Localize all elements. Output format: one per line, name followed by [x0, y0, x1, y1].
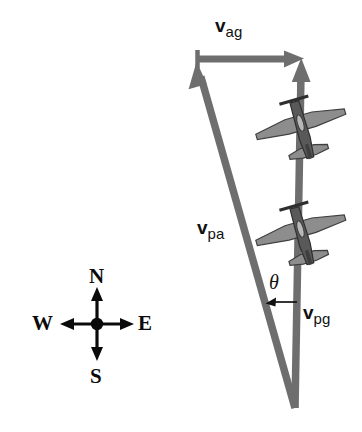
angle-theta-indicator	[266, 298, 298, 307]
diagram-vector-layer	[0, 0, 362, 432]
label-v-pg-symbol: v	[303, 302, 314, 323]
compass-east-arrowhead	[120, 318, 134, 330]
label-v-ag-subscript: ag	[226, 23, 243, 40]
label-v-pa-subscript: pa	[208, 225, 225, 242]
vector-diagram-figure: vag vpa vpg θ N S E W	[0, 0, 362, 432]
compass-label-east: E	[138, 313, 152, 334]
label-v-pg: vpg	[303, 303, 331, 326]
compass-center-dot	[91, 318, 103, 330]
label-v-pg-subscript: pg	[314, 310, 331, 327]
vector-air-ground	[197, 50, 304, 68]
compass-south-arrowhead	[91, 347, 103, 361]
compass-rose	[60, 287, 134, 361]
airplane-upper	[249, 86, 355, 171]
label-theta: θ	[269, 272, 279, 292]
compass-label-south: S	[90, 366, 102, 387]
compass-label-west: W	[32, 313, 53, 334]
airplane-lower	[249, 192, 355, 277]
label-v-ag: vag	[215, 16, 243, 39]
label-v-pa-symbol: v	[197, 217, 208, 238]
compass-label-north: N	[89, 266, 104, 287]
compass-north-arrowhead	[91, 287, 103, 301]
compass-west-arrowhead	[60, 318, 74, 330]
label-v-pa: vpa	[197, 218, 225, 241]
label-v-ag-symbol: v	[215, 15, 226, 36]
